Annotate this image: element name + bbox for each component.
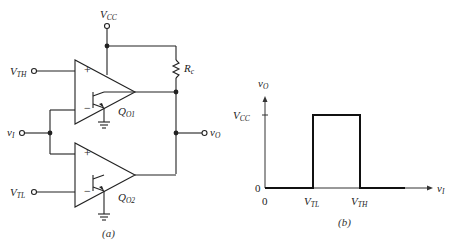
x-axis-label: vI — [437, 183, 444, 196]
y-axis-label: vO — [258, 78, 268, 91]
opamp1-minus: − — [84, 102, 91, 114]
rc-label: Rc — [184, 63, 194, 76]
x-tick-zero: 0 — [262, 196, 268, 207]
vtl-label: VTL — [10, 187, 25, 200]
x-tick-vtl: VTL — [304, 196, 319, 209]
opamp1-plus: + — [84, 64, 91, 76]
vi-terminal — [20, 131, 25, 136]
vi-label: vI — [7, 127, 14, 140]
vcc-terminal — [105, 24, 110, 29]
circuit-and-graph — [0, 0, 456, 245]
caption-a: (a) — [102, 227, 115, 239]
vo-terminal — [202, 131, 207, 136]
vth-terminal — [32, 69, 37, 74]
qo2-label: QO2 — [118, 192, 135, 205]
x-tick-vth: VTH — [351, 196, 367, 209]
y-tick-zero: 0 — [255, 183, 261, 194]
vth-label: VTH — [10, 66, 26, 79]
caption-b: (b) — [338, 216, 351, 228]
y-tick-vcc: VCC — [233, 110, 250, 123]
vo-label: vO — [210, 127, 220, 140]
vtl-terminal — [32, 190, 37, 195]
vcc-label: VCC — [100, 9, 117, 22]
opamp2-plus: + — [84, 147, 91, 159]
qo1-label: QO1 — [118, 106, 135, 119]
opamp2-minus: − — [84, 185, 91, 197]
